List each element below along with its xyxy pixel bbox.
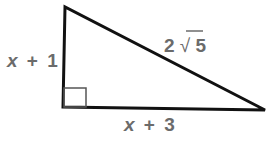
- bottom-leg-label: x + 3: [123, 114, 175, 135]
- right-angle-marker: [64, 88, 86, 107]
- right-triangle-diagram: x + 1 2 √ 5 x + 3: [0, 0, 266, 143]
- hypotenuse-label: 2 √ 5: [164, 35, 207, 56]
- left-leg-label: x + 1: [6, 50, 58, 71]
- triangle-shape: [63, 7, 265, 110]
